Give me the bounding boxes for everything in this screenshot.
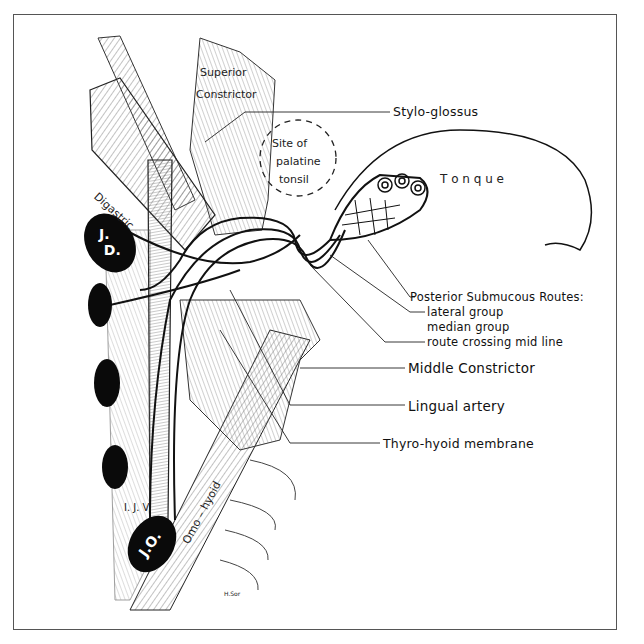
label-constrictor: Constrictor [196,88,257,101]
callout-middle-constrictor: Middle Constrictor [408,360,535,376]
label-ijv: I. J. V. [124,502,151,513]
callout-stylo-glossus: Stylo-glossus [393,104,478,119]
callout-posterior-submucous-routes: Posterior Submucous Routes: [410,290,584,304]
node-upper-deep-2 [94,359,120,407]
callout-lateral-group: lateral group [427,305,503,319]
label-palatine: palatine [276,155,321,168]
middle-constrictor-muscle [180,300,320,450]
label-site-of: Site of [272,137,307,150]
node-upper-deep-1 [88,283,112,327]
node-lower-deep [102,445,128,489]
callout-median-group: median group [427,320,510,334]
callout-route-crossing-mid-line: route crossing mid line [427,335,563,349]
callout-thyro-hyoid-membrane: Thyro-hyoid membrane [383,436,534,451]
label-superior: Superior [200,66,247,79]
artist-signature: H.Sor [224,590,240,597]
label-tonsil: tonsil [279,173,309,186]
node-label-jd: J. D. [99,226,121,258]
callout-lingual-artery: Lingual artery [408,398,505,414]
anatomical-illustration [0,0,644,644]
label-tongue: T o n q u e [440,172,504,186]
